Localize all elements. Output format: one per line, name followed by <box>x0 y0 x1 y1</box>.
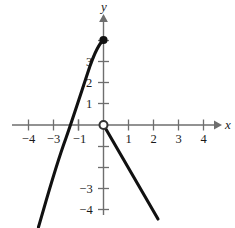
x-tick-label-2: 2 <box>150 132 156 146</box>
axes-group <box>12 14 222 215</box>
x-tick-label--1: −1 <box>73 132 86 146</box>
y-tick-label--4: −4 <box>79 203 93 217</box>
x-axis-arrowhead <box>214 121 222 130</box>
y-axis-arrowhead <box>99 14 108 22</box>
function-graph-figure: −4 −3 −1 1 2 3 4 3 2 1 −3 −4 x y <box>0 0 235 228</box>
x-tick-label--4: −4 <box>22 132 36 146</box>
y-tick-label--3: −3 <box>79 182 92 196</box>
y-tick-label-1: 1 <box>86 97 92 111</box>
x-axis-label: x <box>224 117 231 132</box>
x-tick-label-1: 1 <box>125 132 131 146</box>
x-tick-label-3: 3 <box>175 132 181 146</box>
closed-point-marker <box>99 36 107 44</box>
open-point-marker <box>100 121 108 129</box>
x-tick-label-4: 4 <box>200 132 207 146</box>
coordinate-plane-svg: −4 −3 −1 1 2 3 4 3 2 1 −3 −4 x y <box>0 0 235 228</box>
y-axis-label: y <box>99 0 107 14</box>
x-tick-label--3: −3 <box>47 132 60 146</box>
